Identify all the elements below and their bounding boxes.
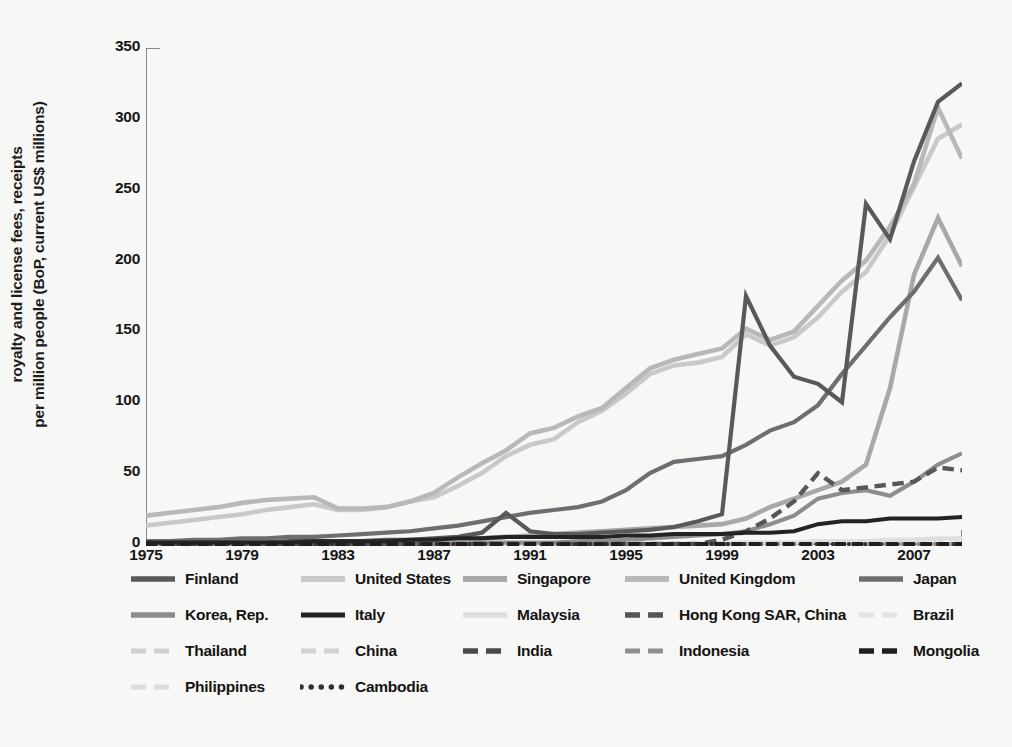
legend-label: Japan (913, 570, 957, 588)
plot-lines (146, 48, 962, 544)
x-tick-label: 1979 (225, 546, 258, 564)
legend-label: Cambodia (355, 678, 428, 696)
legend-item[interactable]: Cambodia (300, 674, 428, 700)
x-tick-label: 1983 (321, 546, 354, 564)
y-axis-label-line1: royalty and license fees, receipts (8, 146, 25, 382)
legend-swatch-icon (300, 638, 346, 664)
y-tick-label: 250 (96, 179, 140, 197)
legend-item[interactable]: Hong Kong SAR, China (624, 602, 846, 628)
legend-swatch-icon (300, 674, 346, 700)
legend-label: Italy (355, 606, 385, 624)
y-axis-tick-labels: 050100150200250300350 (90, 48, 140, 544)
legend-swatch-icon (130, 566, 176, 592)
y-tick-label: 350 (96, 37, 140, 55)
legend-label: Brazil (913, 606, 954, 624)
y-tick-label: 300 (96, 108, 140, 126)
y-tick-label: 50 (96, 462, 140, 480)
x-tick-label: 1995 (609, 546, 642, 564)
legend-row: FinlandUnited StatesSingaporeUnited King… (130, 566, 998, 592)
legend-swatch-icon (130, 674, 176, 700)
legend-row: ThailandChinaIndiaIndonesiaMongolia (130, 638, 998, 664)
legend-label: United Kingdom (679, 570, 795, 588)
legend-swatch-icon (300, 602, 346, 628)
figure: royalty and license fees, receipts per m… (14, 10, 998, 716)
y-tick-label: 200 (96, 250, 140, 268)
legend-label: United States (355, 570, 451, 588)
legend-item[interactable]: Malaysia (462, 602, 580, 628)
plot-area (146, 48, 962, 544)
legend-item[interactable]: Brazil (858, 602, 954, 628)
legend-item[interactable]: Philippines (130, 674, 265, 700)
legend-item[interactable]: Indonesia (624, 638, 749, 664)
y-tick-label: 100 (96, 391, 140, 409)
legend-row: PhilippinesCambodia (130, 674, 998, 700)
legend-label: Philippines (185, 678, 265, 696)
series-line (146, 125, 962, 526)
legend-label: Malaysia (517, 606, 580, 624)
legend-item[interactable]: Korea, Rep. (130, 602, 268, 628)
legend-swatch-icon (130, 602, 176, 628)
legend-label: Finland (185, 570, 238, 588)
legend-item[interactable]: Thailand (130, 638, 247, 664)
series-line (146, 108, 962, 516)
legend-label: Indonesia (679, 642, 749, 660)
legend-label: Thailand (185, 642, 247, 660)
chart-svg (146, 48, 962, 546)
legend-row: Korea, Rep.ItalyMalaysiaHong Kong SAR, C… (130, 602, 998, 628)
legend-swatch-icon (858, 566, 904, 592)
legend-label: Hong Kong SAR, China (679, 606, 846, 624)
legend-swatch-icon (462, 638, 508, 664)
legend-swatch-icon (462, 566, 508, 592)
legend-item[interactable]: Finland (130, 566, 238, 592)
x-tick-label: 1999 (705, 546, 738, 564)
legend-label: Korea, Rep. (185, 606, 268, 624)
legend-label: Singapore (517, 570, 591, 588)
x-tick-label: 2007 (897, 546, 930, 564)
legend-item[interactable]: China (300, 638, 397, 664)
x-tick-label: 2003 (801, 546, 834, 564)
x-tick-label: 1987 (417, 546, 450, 564)
legend-item[interactable]: Singapore (462, 566, 591, 592)
legend-item[interactable]: United States (300, 566, 451, 592)
legend-swatch-icon (858, 602, 904, 628)
legend-swatch-icon (624, 638, 670, 664)
y-axis-label: royalty and license fees, receipts per m… (6, 14, 51, 514)
legend-swatch-icon (462, 602, 508, 628)
series-line (146, 83, 962, 542)
legend-item[interactable]: Mongolia (858, 638, 979, 664)
legend-label: India (517, 642, 552, 660)
legend-swatch-icon (300, 566, 346, 592)
legend-label: China (355, 642, 397, 660)
x-tick-label: 1991 (513, 546, 546, 564)
legend-swatch-icon (624, 566, 670, 592)
legend-item[interactable]: India (462, 638, 552, 664)
legend-item[interactable]: United Kingdom (624, 566, 795, 592)
legend-item[interactable]: Japan (858, 566, 957, 592)
legend-swatch-icon (130, 638, 176, 664)
legend-item[interactable]: Italy (300, 602, 385, 628)
chart-legend: FinlandUnited StatesSingaporeUnited King… (130, 566, 998, 710)
x-tick-label: 1975 (129, 546, 162, 564)
y-tick-label: 150 (96, 320, 140, 338)
legend-label: Mongolia (913, 642, 979, 660)
chart-page: royalty and license fees, receipts per m… (0, 0, 1012, 747)
legend-swatch-icon (858, 638, 904, 664)
y-axis-label-line2: per million people (BoP, current US$ mil… (28, 14, 50, 514)
legend-swatch-icon (624, 602, 670, 628)
